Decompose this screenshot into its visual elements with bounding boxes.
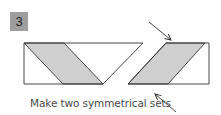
right-set-shape [128, 43, 209, 84]
top-arrow-icon [149, 22, 171, 40]
left-set-shape [24, 43, 143, 84]
instruction-caption: Make two symmetrical sets [30, 97, 171, 109]
